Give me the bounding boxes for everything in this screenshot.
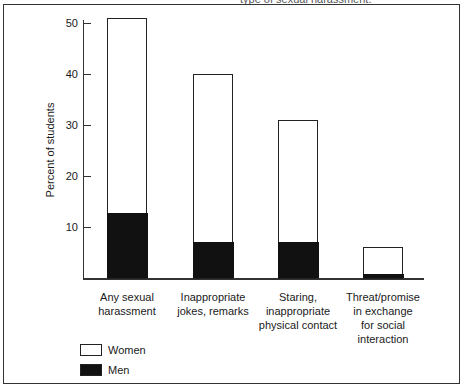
- y-tick: [83, 74, 91, 75]
- y-tick-label: 40: [48, 68, 78, 80]
- y-tick: [83, 125, 91, 126]
- bar-women: [363, 247, 403, 279]
- legend-item-men: Men: [80, 360, 146, 380]
- legend-label-men: Men: [108, 364, 129, 376]
- y-tick-label: 50: [48, 17, 78, 29]
- bar-men: [193, 242, 234, 278]
- category-label: Threat/promisein exchangefor socialinter…: [328, 290, 438, 346]
- bar-men: [278, 242, 319, 278]
- y-tick-label: 10: [48, 221, 78, 233]
- y-tick: [83, 23, 91, 24]
- women-swatch: [80, 344, 102, 356]
- legend: Women Men: [80, 340, 146, 380]
- bar-men: [107, 213, 148, 278]
- y-tick-label: 30: [48, 119, 78, 131]
- legend-item-women: Women: [80, 340, 146, 360]
- y-tick: [83, 227, 91, 228]
- legend-label-women: Women: [108, 344, 146, 356]
- bar-men: [363, 274, 404, 278]
- bar-women: [107, 18, 147, 279]
- bar-women: [278, 120, 318, 279]
- y-axis: [83, 20, 84, 279]
- y-axis-label: Percent of students: [44, 103, 56, 198]
- men-swatch: [80, 364, 102, 376]
- bar-women: [193, 74, 233, 279]
- y-tick: [83, 176, 91, 177]
- y-tick-label: 20: [48, 170, 78, 182]
